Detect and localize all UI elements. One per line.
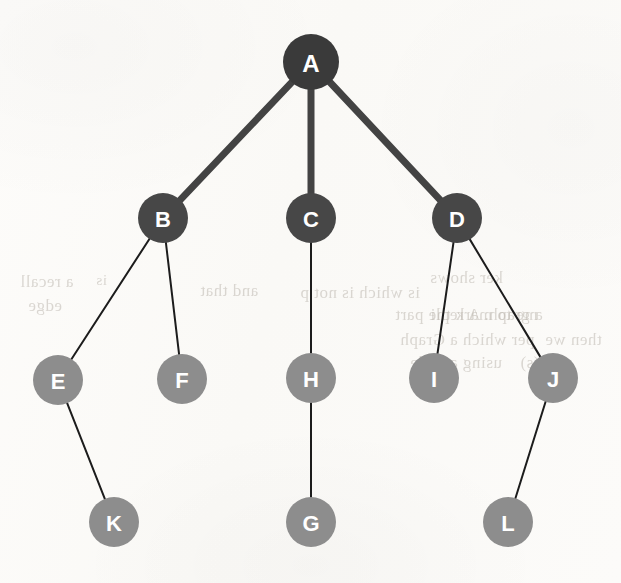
node-e[interactable]: E: [33, 355, 83, 405]
node-d[interactable]: D: [432, 193, 482, 243]
node-label-c: C: [303, 207, 319, 232]
node-label-b: B: [155, 207, 171, 232]
edge-e-k: [66, 400, 106, 501]
node-label-e: E: [51, 369, 66, 394]
node-label-g: G: [302, 511, 319, 536]
node-label-l: L: [501, 511, 514, 536]
node-f[interactable]: F: [157, 354, 207, 404]
node-label-d: D: [449, 207, 465, 232]
edge-b-e: [70, 236, 151, 361]
edge-j-l: [515, 399, 547, 501]
node-l[interactable]: L: [483, 497, 533, 547]
node-c[interactable]: C: [286, 193, 336, 243]
node-k[interactable]: K: [89, 497, 139, 547]
node-label-f: F: [175, 368, 188, 393]
node-label-h: H: [303, 367, 319, 392]
edge-d-j: [468, 237, 541, 359]
node-j[interactable]: J: [528, 353, 578, 403]
node-h[interactable]: H: [286, 353, 336, 403]
tree-diagram-figure: ker showsand thatis which is not pme to …: [0, 0, 621, 583]
node-label-a: A: [302, 50, 319, 77]
node-label-i: I: [431, 367, 437, 392]
node-label-j: J: [547, 367, 559, 392]
node-b[interactable]: B: [138, 193, 188, 243]
edge-d-i: [437, 240, 454, 356]
node-layer: ABCDEFHIJKGL: [33, 34, 578, 547]
tree-graph-canvas: ABCDEFHIJKGL: [0, 0, 621, 583]
node-a[interactable]: A: [283, 34, 339, 90]
edge-a-d: [328, 80, 442, 202]
node-i[interactable]: I: [409, 353, 459, 403]
node-label-k: K: [106, 511, 122, 536]
edge-a-b: [178, 80, 294, 202]
node-g[interactable]: G: [286, 497, 336, 547]
edge-layer: [66, 80, 546, 501]
edge-b-f: [166, 240, 180, 357]
